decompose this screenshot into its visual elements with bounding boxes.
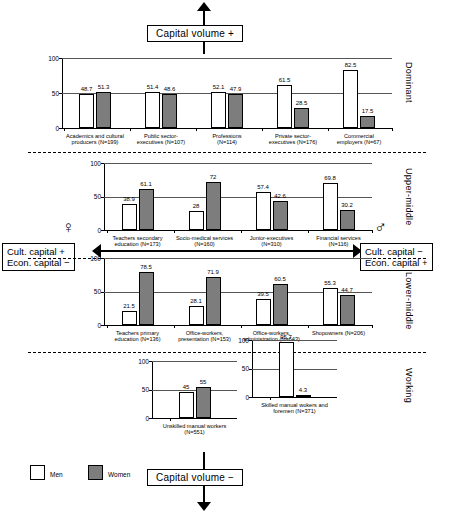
lower-middle-bar-men-3[interactable] <box>323 288 338 325</box>
working-0-ylabel-100: 100 <box>130 358 149 365</box>
upper-middle-bar-women-2[interactable] <box>273 201 288 230</box>
dominant-ytick-50 <box>59 93 62 94</box>
upper-middle-value-men-2: 57.4 <box>250 184 277 190</box>
working-1-ytick-100 <box>249 340 252 341</box>
dominant-xtick-0 <box>64 128 65 131</box>
capital-volume-top-arrow-tail <box>203 42 205 54</box>
upper-middle-bar-women-0[interactable] <box>139 189 154 230</box>
capital-volume-bottom-arrow-tail <box>203 452 205 469</box>
dominant-ylabel-0: 0 <box>40 125 59 132</box>
dominant-bar-men-2[interactable] <box>211 92 226 128</box>
dominant-category-1: Public sector- executives (N=107) <box>125 133 197 146</box>
working-1-x-axis <box>252 397 337 398</box>
upper-middle-xtick-end <box>372 230 373 233</box>
lower-middle-gridline-100 <box>104 258 372 259</box>
dominant-category-4: Commercial employers (N=67) <box>323 133 395 146</box>
lower-middle-bar-women-0[interactable] <box>139 272 154 325</box>
lower-middle-x-axis <box>104 325 372 326</box>
upper-middle-ytick-0 <box>101 230 104 231</box>
upper-middle-ytick-50 <box>101 197 104 198</box>
dominant-bar-women-0[interactable] <box>96 92 111 128</box>
upper-middle-gridline-100 <box>104 163 372 164</box>
dominant-bar-men-4[interactable] <box>343 70 358 128</box>
dominant-bar-men-0[interactable] <box>79 94 94 128</box>
dominant-value-men-3: 61.5 <box>271 77 298 83</box>
class-label-lower-middle: Lower-middle <box>404 272 414 330</box>
upper-middle-bar-men-0[interactable] <box>122 204 137 230</box>
dominant-value-women-2: 47.9 <box>222 86 249 92</box>
lower-middle-bar-men-0[interactable] <box>122 311 137 325</box>
working-1-value-men-1: 95.7 <box>273 334 300 340</box>
lower-middle-value-women-3: 44.7 <box>334 287 361 293</box>
dominant-bar-women-2[interactable] <box>228 94 243 128</box>
dominant-gridline-100 <box>62 58 392 59</box>
upper-middle-bar-women-1[interactable] <box>206 182 221 230</box>
dominant-value-women-3: 28.5 <box>288 100 315 106</box>
upper-middle-bar-women-3[interactable] <box>340 210 355 230</box>
upper-middle-category-1: Socio-medical services (N=160) <box>169 235 241 248</box>
lower-middle-bar-women-3[interactable] <box>340 295 355 325</box>
dominant-bar-men-3[interactable] <box>277 85 292 128</box>
dominant-bar-men-1[interactable] <box>145 92 160 128</box>
male-symbol: ♂ <box>374 219 387 236</box>
dominant-bar-women-3[interactable] <box>294 108 309 128</box>
dominant-ytick-100 <box>59 58 62 59</box>
upper-middle-xtick-0 <box>107 230 108 233</box>
dominant-x-axis <box>62 128 392 129</box>
lower-middle-xtick-1 <box>174 325 175 328</box>
lower-middle-xtick-2 <box>241 325 242 328</box>
working-1-gridline-50 <box>252 369 337 370</box>
working-0-ytick-50 <box>149 390 152 391</box>
lower-middle-bar-women-1[interactable] <box>206 277 221 325</box>
upper-middle-bar-men-1[interactable] <box>189 211 204 230</box>
class-label-dominant: Dominant <box>404 62 414 103</box>
upper-middle-value-women-2: 42.6 <box>267 193 294 199</box>
working-0-category-0: Unskilled manual workers (N=551) <box>159 423 231 436</box>
working-1-ytick-50 <box>249 369 252 370</box>
working-0-ytick-0 <box>149 418 152 419</box>
capital-volume-bottom-arrow-head <box>197 502 211 511</box>
working-1-bar-women-1[interactable] <box>296 395 311 397</box>
working-0-ytick-100 <box>149 361 152 362</box>
working-0-bar-men-0[interactable] <box>179 392 194 418</box>
dominant-bar-women-1[interactable] <box>162 94 177 128</box>
upper-middle-ytick-100 <box>101 163 104 164</box>
cultural-capital-plus-box: Cult. capital + Econ. capital − <box>2 243 75 271</box>
dominant-category-0: Academics and cultural producers (N=199) <box>59 133 131 146</box>
working-0-bar-women-0[interactable] <box>196 387 211 418</box>
dominant-value-women-0: 51.3 <box>90 84 117 90</box>
lower-middle-ylabel-50: 50 <box>82 288 101 295</box>
lower-middle-category-0: Teachers primary education (N=136) <box>102 330 174 343</box>
upper-middle-xtick-2 <box>241 230 242 233</box>
cult-left-line1: Cult. capital + <box>7 246 70 257</box>
upper-middle-category-3: Financial services (N=116) <box>303 235 375 248</box>
capital-volume-top-arrow-head <box>197 2 211 11</box>
working-1-category-1: Skilled manual wokers and foremen (N=371… <box>259 402 331 415</box>
dominant-bar-women-4[interactable] <box>360 116 375 128</box>
working-1-value-women-1: 4.3 <box>290 387 317 393</box>
lower-middle-value-women-2: 60.5 <box>267 276 294 282</box>
legend-label-men: Men <box>50 471 63 479</box>
lower-middle-bar-men-1[interactable] <box>189 306 204 325</box>
lower-middle-bar-women-2[interactable] <box>273 284 288 325</box>
lower-middle-ylabel-0: 0 <box>82 322 101 329</box>
lower-middle-bar-men-2[interactable] <box>256 299 271 325</box>
dominant-xtick-1 <box>130 128 131 131</box>
class-label-upper-middle: Upper-middle <box>404 168 414 226</box>
dominant-value-women-4: 17.5 <box>354 108 381 114</box>
lower-middle-value-women-0: 78.5 <box>133 264 160 270</box>
working-0-x-axis <box>152 418 237 419</box>
dominant-ylabel-50: 50 <box>40 90 59 97</box>
upper-middle-ylabel-0: 0 <box>82 227 101 234</box>
legend-label-women: Women <box>108 471 130 479</box>
upper-middle-x-axis <box>104 230 372 231</box>
lower-middle-ylabel-100: 100 <box>82 255 101 262</box>
working-0-value-women-0: 55 <box>190 379 217 385</box>
dominant-xtick-2 <box>196 128 197 131</box>
dominant-xtick-4 <box>328 128 329 131</box>
capital-composition-axis <box>100 250 354 252</box>
working-1-ylabel-50: 50 <box>230 365 249 372</box>
lower-middle-xtick-0 <box>107 325 108 328</box>
upper-middle-value-women-3: 30.2 <box>334 202 361 208</box>
lower-middle-value-men-3: 55.3 <box>317 280 344 286</box>
